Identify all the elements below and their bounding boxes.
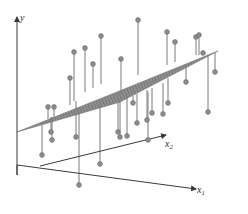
data-point <box>98 162 103 167</box>
data-point <box>40 153 45 158</box>
data-point <box>125 134 130 139</box>
y-axis-label: y <box>19 12 25 23</box>
data-point <box>72 50 77 55</box>
data-point <box>165 30 170 35</box>
data-point <box>83 46 88 51</box>
data-point <box>197 33 202 38</box>
data-point <box>50 138 55 143</box>
data-point <box>49 130 54 135</box>
data-point <box>118 135 123 140</box>
data-point <box>201 51 206 56</box>
data-point <box>136 18 141 23</box>
data-point <box>206 110 211 115</box>
regression-plane-figure: y x2 x1 <box>0 0 248 214</box>
data-point <box>74 135 79 140</box>
data-point <box>173 40 178 45</box>
data-point <box>150 111 155 116</box>
data-point <box>135 121 140 126</box>
data-point <box>119 57 124 62</box>
data-point <box>99 34 104 39</box>
data-point <box>145 118 150 123</box>
data-point <box>184 80 189 85</box>
x1-axis-label: x1 <box>196 184 205 197</box>
x2-axis-label: x2 <box>164 138 173 151</box>
residual-stems-below <box>42 53 215 185</box>
data-point <box>68 76 73 81</box>
data-point <box>166 101 171 106</box>
data-point <box>131 101 136 106</box>
data-point <box>146 138 151 143</box>
data-point <box>116 130 121 135</box>
x1-axis <box>17 165 196 189</box>
data-point <box>161 112 166 117</box>
data-point <box>77 183 82 188</box>
data-point <box>46 105 51 110</box>
data-point <box>91 62 96 67</box>
data-points <box>40 18 218 188</box>
data-point <box>213 70 218 75</box>
data-point <box>52 105 57 110</box>
